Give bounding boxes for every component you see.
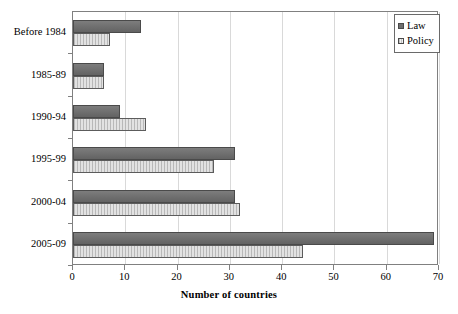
x-axis-tick — [438, 265, 439, 270]
y-axis-tick — [68, 138, 72, 139]
y-axis-category-label: 1990-94 — [31, 111, 66, 123]
x-axis-tick — [229, 265, 230, 270]
chart-legend: Law Policy — [394, 14, 440, 53]
bar-law — [73, 147, 235, 160]
bar-law — [73, 105, 120, 118]
x-axis-tick — [386, 265, 387, 270]
bar-policy — [73, 203, 240, 216]
y-axis-category-label: Before 1984 — [14, 26, 66, 38]
legend-swatch-policy-icon — [398, 38, 404, 44]
x-axis-tick — [333, 265, 334, 270]
legend-label-law: Law — [407, 18, 426, 33]
x-axis-title: Number of countries — [0, 289, 458, 300]
legend-item-policy[interactable]: Policy — [398, 33, 437, 48]
legend-label-policy: Policy — [407, 33, 434, 48]
gridline — [230, 12, 231, 264]
bar-policy — [73, 76, 104, 89]
plot-area — [72, 11, 438, 265]
x-axis-tick-label: 0 — [69, 271, 74, 283]
y-axis-category-label: 1985-89 — [31, 69, 66, 81]
legend-swatch-law-icon — [398, 23, 404, 29]
y-axis-tick — [68, 223, 72, 224]
bar-group — [73, 190, 437, 216]
x-axis-tick-label: 10 — [119, 271, 130, 283]
y-axis-tick — [68, 53, 72, 54]
bar-policy — [73, 33, 110, 46]
bar-chart: Before 19841985-891990-941995-992000-042… — [0, 0, 458, 314]
y-axis-category-label: 1995-99 — [31, 153, 66, 165]
bar-group — [73, 232, 437, 258]
x-axis-tick-label: 40 — [276, 271, 287, 283]
x-axis-tick-label: 50 — [328, 271, 339, 283]
gridline — [387, 12, 388, 264]
bar-policy — [73, 245, 303, 258]
x-axis-tick-label: 70 — [433, 271, 444, 283]
x-axis-tick-label: 60 — [380, 271, 391, 283]
x-axis-tick — [177, 265, 178, 270]
x-axis-tick — [124, 265, 125, 270]
x-axis-tick-label: 20 — [171, 271, 182, 283]
bar-law — [73, 232, 434, 245]
x-axis-tick — [281, 265, 282, 270]
bar-group — [73, 63, 437, 89]
bar-law — [73, 63, 104, 76]
y-axis-tick — [68, 96, 72, 97]
legend-item-law[interactable]: Law — [398, 18, 437, 33]
bar-group — [73, 147, 437, 173]
gridline — [282, 12, 283, 264]
bar-policy — [73, 118, 146, 131]
gridline — [334, 12, 335, 264]
bar-group — [73, 105, 437, 131]
y-axis-category-label: 2005-09 — [31, 238, 66, 250]
y-axis-category-label: 2000-04 — [31, 196, 66, 208]
x-axis-tick — [72, 265, 73, 270]
x-axis-tick-label: 30 — [224, 271, 235, 283]
bar-law — [73, 20, 141, 33]
y-axis-tick — [68, 180, 72, 181]
bar-policy — [73, 160, 214, 173]
gridline — [178, 12, 179, 264]
bar-law — [73, 190, 235, 203]
bar-group — [73, 20, 437, 46]
y-axis-category-labels: Before 19841985-891990-941995-992000-042… — [0, 0, 72, 314]
gridline — [125, 12, 126, 264]
